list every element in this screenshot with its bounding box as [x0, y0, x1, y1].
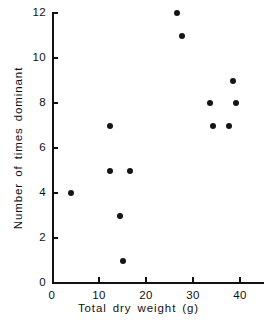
data-point: [174, 10, 180, 16]
data-point: [127, 168, 133, 174]
data-point: [120, 258, 126, 264]
data-point: [226, 123, 232, 129]
x-tick-label: 0: [37, 289, 67, 301]
data-point: [68, 190, 74, 196]
x-axis-line: [52, 282, 264, 284]
x-axis-title: Total dry weight (g): [0, 302, 277, 314]
x-tick-mark: [98, 277, 99, 283]
y-tick-mark: [52, 192, 58, 193]
data-point: [230, 78, 236, 84]
x-tick-label: 10: [84, 289, 114, 301]
y-tick-mark: [52, 147, 58, 148]
scatter-plot-figure: 024681012 010203040 Number of times domi…: [0, 0, 277, 324]
x-tick-mark: [239, 277, 240, 283]
x-tick-label: 40: [225, 289, 255, 301]
data-point: [107, 123, 113, 129]
y-tick-mark: [52, 102, 58, 103]
x-tick-mark: [192, 277, 193, 283]
data-point: [107, 168, 113, 174]
y-tick-mark: [52, 237, 58, 238]
y-axis-title: Number of times dominant: [12, 18, 24, 278]
data-point: [233, 100, 239, 106]
data-point: [207, 100, 213, 106]
data-point: [179, 33, 185, 39]
x-tick-label: 20: [131, 289, 161, 301]
plot-area: 024681012 010203040: [52, 13, 263, 283]
x-tick-mark: [145, 277, 146, 283]
y-tick-label: 12: [18, 6, 46, 18]
y-tick-mark: [52, 57, 58, 58]
data-point: [117, 213, 123, 219]
x-tick-label: 30: [178, 289, 208, 301]
y-tick-mark: [52, 12, 58, 13]
data-point: [210, 123, 216, 129]
